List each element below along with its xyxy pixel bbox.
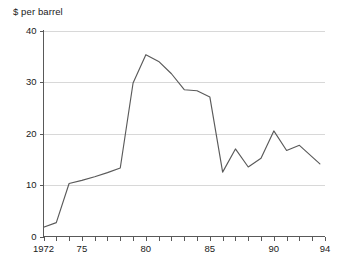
axis-ticks — [40, 32, 326, 241]
y-tick-label: 0 — [31, 231, 36, 242]
y-tick-label: 20 — [26, 128, 37, 139]
x-tick-label: 85 — [205, 243, 216, 254]
x-tick-label: 80 — [141, 243, 152, 254]
price-series-line — [44, 55, 320, 228]
x-tick-label: 75 — [77, 243, 88, 254]
chart-plot-area: 010203040 19727580859094 — [0, 0, 345, 271]
gridlines — [44, 32, 326, 186]
x-tick-labels: 19727580859094 — [33, 243, 330, 254]
y-tick-label: 10 — [26, 179, 37, 190]
x-tick-label: 90 — [269, 243, 280, 254]
x-tick-label: 1972 — [33, 243, 54, 254]
oil-price-chart: $ per barrel 010203040 19727580859094 — [0, 0, 345, 271]
x-tick-label: 94 — [320, 243, 331, 254]
y-tick-labels: 010203040 — [26, 25, 37, 242]
y-tick-label: 30 — [26, 76, 37, 87]
y-tick-label: 40 — [26, 25, 37, 36]
